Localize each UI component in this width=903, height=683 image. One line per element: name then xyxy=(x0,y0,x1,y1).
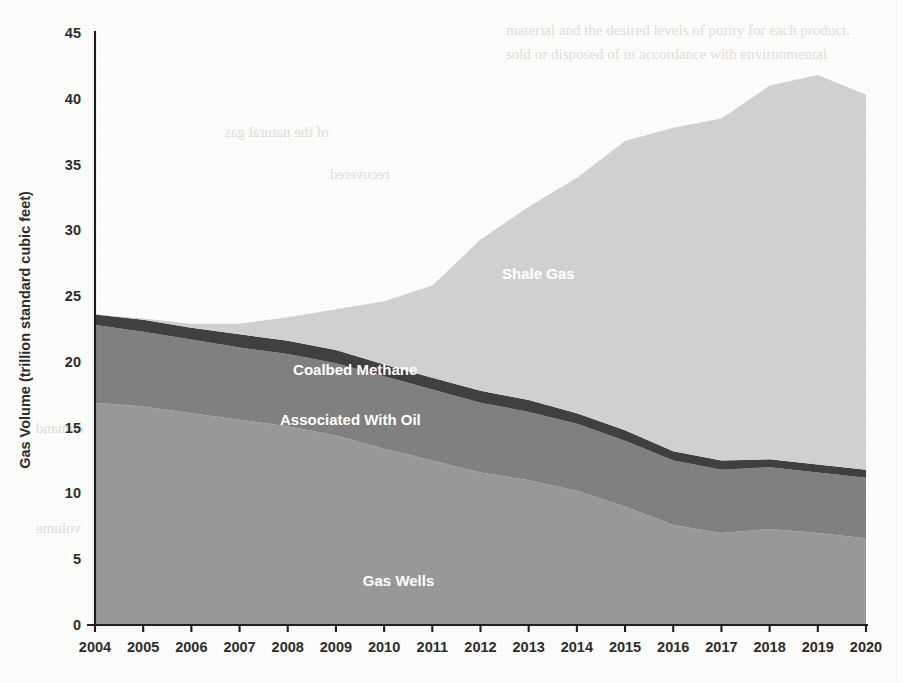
x-tick-label: 2006 xyxy=(175,639,207,655)
x-tick-label: 2019 xyxy=(802,639,834,655)
x-tick-label: 2013 xyxy=(513,639,545,655)
series-label-coalbed-methane: Coalbed Methane xyxy=(293,361,417,378)
series-label-shale-gas: Shale Gas xyxy=(502,265,575,282)
scanned-page: material and the desired levels of purit… xyxy=(0,0,903,683)
y-tick-label: 20 xyxy=(65,354,81,370)
stacked-area-chart-figure: 051015202530354045 200420052006200720082… xyxy=(0,0,903,683)
y-tick-label: 15 xyxy=(65,420,81,436)
x-tick-label: 2016 xyxy=(657,639,689,655)
chart-canvas: 051015202530354045 200420052006200720082… xyxy=(0,0,903,683)
y-tick-label: 10 xyxy=(65,485,81,501)
x-tick-label: 2012 xyxy=(464,639,496,655)
y-tick-label: 45 xyxy=(65,25,81,41)
area-series-group xyxy=(95,75,866,625)
x-tick-label: 2018 xyxy=(753,639,785,655)
x-tick-label: 2005 xyxy=(127,639,159,655)
x-tick-label: 2014 xyxy=(561,639,593,655)
y-tick-label-group: 051015202530354045 xyxy=(65,25,81,633)
x-tick-label: 2015 xyxy=(609,639,641,655)
x-tick-label: 2017 xyxy=(705,639,737,655)
x-tick-label: 2020 xyxy=(850,639,882,655)
x-tick-label: 2008 xyxy=(272,639,304,655)
y-tick-label: 40 xyxy=(65,91,81,107)
y-tick-label: 5 xyxy=(73,551,81,567)
x-tick-label: 2011 xyxy=(417,639,448,655)
y-tick-label: 25 xyxy=(65,288,81,304)
y-tick-label: 35 xyxy=(65,157,81,173)
x-tick-label-group: 2004200520062007200820092010201120122013… xyxy=(79,625,882,655)
x-tick-label: 2009 xyxy=(320,639,352,655)
series-label-associated-with-oil: Associated With Oil xyxy=(280,411,421,428)
y-axis-title: Gas Volume (trillion standard cubic feet… xyxy=(17,191,33,469)
series-label-gas-wells: Gas Wells xyxy=(363,572,434,589)
x-tick-label: 2004 xyxy=(79,639,111,655)
y-tick-label: 30 xyxy=(65,222,81,238)
x-tick-label: 2007 xyxy=(223,639,255,655)
x-tick-label: 2010 xyxy=(368,639,400,655)
y-tick-label: 0 xyxy=(73,617,81,633)
